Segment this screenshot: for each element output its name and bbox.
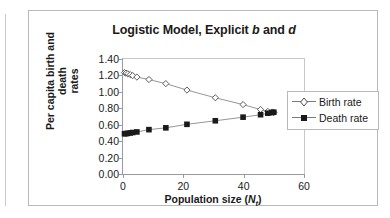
data-point-filled-square	[146, 127, 152, 133]
y-tick-label: 0.60	[99, 119, 119, 131]
page-margin-rule	[5, 14, 6, 206]
plot-inner: 0.000.200.400.600.801.001.201.400204060	[123, 59, 304, 174]
data-point-open-diamond	[212, 95, 218, 101]
y-axis-title: Per capita birth and death rates	[44, 26, 80, 136]
y-tick-mark	[119, 108, 123, 109]
x-axis-title-pre: Population size (	[164, 193, 247, 205]
data-point-open-diamond	[163, 81, 169, 87]
x-tick-mark	[183, 174, 184, 178]
y-tick-label: 0.40	[99, 135, 119, 147]
data-point-filled-square	[134, 129, 140, 135]
data-point-filled-square	[163, 125, 169, 131]
x-tick-label: 0	[120, 180, 126, 192]
x-tick-label: 60	[298, 180, 310, 192]
legend-label-death-rate: Death rate	[319, 112, 368, 124]
y-tick-label: 1.20	[99, 69, 119, 81]
legend-label-birth-rate: Birth rate	[319, 96, 362, 108]
y-tick-label: 0.00	[99, 168, 119, 180]
data-point-open-diamond	[240, 101, 246, 107]
x-tick-mark	[123, 174, 124, 178]
y-axis-title-line1: Per capita birth and death	[44, 32, 68, 130]
chart-legend: Birth rate Death rate	[287, 91, 379, 130]
legend-item-birth-rate: Birth rate	[292, 94, 362, 110]
x-axis-title: Population size (Nt)	[122, 193, 304, 208]
y-tick-mark	[119, 125, 123, 126]
chart-title-pre: Logistic Model, Explicit	[112, 23, 252, 37]
y-axis-title-line2: rates	[68, 26, 80, 136]
chart-title: Logistic Model, Explicit b and d	[89, 23, 319, 37]
chart-title-mid: and	[260, 23, 289, 37]
x-axis-title-post: )	[258, 193, 262, 205]
series-layer	[123, 59, 304, 174]
filled-square-marker-icon	[292, 112, 316, 124]
chart-screenshot: Logistic Model, Explicit b and d Per cap…	[0, 0, 390, 218]
plot-area: 0.000.200.400.600.801.001.201.400204060	[122, 58, 305, 175]
data-point-open-diamond	[257, 106, 263, 112]
x-tick-mark	[244, 174, 245, 178]
chart-title-italic-b: b	[252, 23, 260, 37]
data-point-filled-square	[240, 114, 246, 120]
data-point-open-diamond	[184, 87, 190, 93]
legend-item-death-rate: Death rate	[292, 110, 368, 126]
y-tick-label: 1.40	[99, 53, 119, 65]
chart-title-italic-d: d	[288, 23, 296, 37]
data-point-filled-square	[184, 122, 190, 128]
data-point-filled-square	[271, 109, 277, 115]
x-tick-mark	[304, 174, 305, 178]
y-tick-label: 0.80	[99, 102, 119, 114]
data-point-open-diamond	[146, 76, 152, 82]
x-tick-label: 40	[238, 180, 250, 192]
x-tick-label: 20	[177, 180, 189, 192]
y-tick-mark	[119, 158, 123, 159]
data-point-filled-square	[213, 118, 219, 124]
y-tick-mark	[119, 75, 123, 76]
y-tick-label: 1.00	[99, 86, 119, 98]
y-tick-label: 0.20	[99, 152, 119, 164]
y-tick-mark	[119, 141, 123, 142]
open-diamond-marker-icon	[292, 96, 316, 108]
data-point-filled-square	[258, 112, 264, 118]
x-axis-title-italic-n: N	[248, 193, 256, 205]
y-tick-mark	[119, 59, 123, 60]
series-death-rate	[122, 109, 277, 136]
series-birth-rate	[121, 69, 277, 115]
y-tick-mark	[119, 92, 123, 93]
